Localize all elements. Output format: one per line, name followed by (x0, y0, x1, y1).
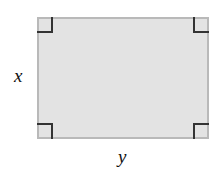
rectangle (37, 17, 209, 139)
side-label-y: y (118, 146, 126, 168)
right-angle-marker-bottom-left (37, 123, 53, 139)
right-angle-marker-top-right (193, 17, 209, 33)
side-label-x: x (14, 65, 22, 87)
right-angle-marker-bottom-right (193, 123, 209, 139)
right-angle-marker-top-left (37, 17, 53, 33)
